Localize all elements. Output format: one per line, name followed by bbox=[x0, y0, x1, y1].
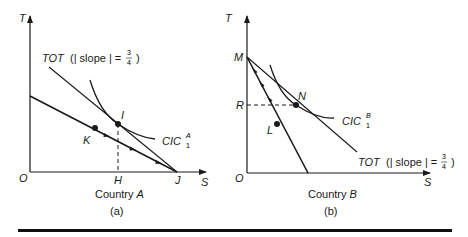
panel-b-origin-label: O bbox=[235, 172, 244, 184]
panel-b: T O S M R N L CIC B 1 TOT (| slope | = 3… bbox=[225, 12, 455, 217]
panel-a-ppf-arrow-icon bbox=[156, 160, 163, 164]
panel-b-label-r: R bbox=[236, 99, 244, 111]
panel-a: T O S H J I K TOT (| slope | = 3 4 ) CIC… bbox=[19, 12, 209, 217]
panel-a-x-label: S bbox=[201, 176, 209, 188]
panel-b-label-m: M bbox=[234, 51, 244, 63]
tot-slope-text: (| slope | = bbox=[386, 156, 437, 168]
tot-close-paren: ) bbox=[451, 156, 455, 168]
tot-slope-text: (| slope | = bbox=[70, 52, 121, 64]
panel-b-x-label: S bbox=[424, 176, 432, 188]
tot-prefix: TOT bbox=[42, 52, 65, 64]
panel-a-caption: (a) bbox=[110, 205, 123, 217]
panel-a-country-label: Country A bbox=[95, 188, 144, 200]
cic-subscript: 1 bbox=[366, 122, 370, 129]
panel-b-point-l bbox=[274, 121, 280, 127]
panel-b-ppf-arrow-icon bbox=[267, 96, 273, 103]
panel-b-caption: (b) bbox=[324, 205, 337, 217]
panel-a-label-k: K bbox=[83, 134, 91, 146]
cic-subscript: 1 bbox=[186, 142, 190, 149]
cic-superscript: B bbox=[366, 112, 371, 119]
panel-a-label-h: H bbox=[114, 174, 122, 186]
panel-a-ppf-line bbox=[30, 96, 177, 172]
panel-b-country-label: Country B bbox=[308, 188, 357, 200]
cic-superscript: A bbox=[185, 132, 191, 139]
tot-fraction-denominator: 4 bbox=[127, 59, 131, 66]
cic-base: CIC bbox=[342, 115, 361, 127]
bottom-rule bbox=[18, 229, 452, 232]
panel-a-ppf-arrow-icon bbox=[104, 133, 111, 137]
panel-a-point-k bbox=[92, 125, 98, 131]
trade-diagram: T O S H J I K TOT (| slope | = 3 4 ) CIC… bbox=[0, 0, 468, 237]
panel-b-y-label: T bbox=[225, 12, 233, 24]
tot-fraction-numerator: 3 bbox=[127, 49, 131, 56]
panel-a-label-i: I bbox=[121, 109, 124, 121]
tot-fraction-denominator: 4 bbox=[442, 163, 446, 170]
tot-close-paren: ) bbox=[136, 52, 140, 64]
panel-a-label-j: J bbox=[174, 174, 181, 186]
panel-a-ppf-arrow-icon bbox=[130, 147, 137, 151]
panel-b-ppf-line bbox=[247, 57, 308, 173]
tot-fraction-numerator: 3 bbox=[442, 153, 446, 160]
panel-a-y-label: T bbox=[19, 12, 27, 24]
panel-b-ppf-arrow-icon bbox=[252, 68, 258, 75]
panel-b-tot-label: TOT (| slope | = 3 4 ) bbox=[358, 153, 455, 170]
panel-b-cic-label: CIC B 1 bbox=[342, 112, 371, 129]
panel-b-point-n bbox=[293, 102, 299, 108]
panel-b-label-n: N bbox=[298, 90, 306, 102]
panel-a-origin-label: O bbox=[19, 172, 28, 184]
panel-b-ppf-arrow-icon bbox=[259, 81, 265, 88]
panel-a-cic-label: CIC A 1 bbox=[162, 132, 191, 149]
panel-a-point-i bbox=[115, 121, 121, 127]
panel-a-tot-label: TOT (| slope | = 3 4 ) bbox=[42, 49, 140, 66]
tot-prefix: TOT bbox=[358, 156, 381, 168]
cic-base: CIC bbox=[162, 135, 181, 147]
panel-b-label-l: L bbox=[267, 124, 273, 136]
